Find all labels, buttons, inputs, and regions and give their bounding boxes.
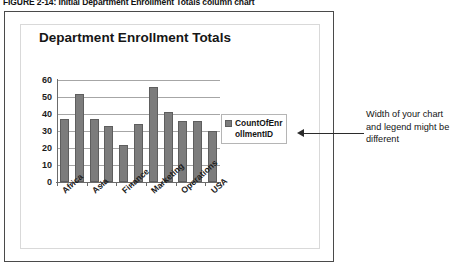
x-axis-tick xyxy=(87,182,88,186)
bar xyxy=(104,126,113,182)
bar xyxy=(119,145,128,182)
y-axis-tick-label: 20 xyxy=(30,143,52,153)
y-axis-tick-label: 10 xyxy=(30,160,52,170)
y-axis-tick-label: 30 xyxy=(30,126,52,136)
legend-entry: CountOfEnrollmentID xyxy=(225,118,283,139)
legend-label: CountOfEnrollmentID xyxy=(235,118,283,139)
y-axis-tick-label: 50 xyxy=(30,92,52,102)
figure-caption: FIGURE 2-14: Initial Department Enrollme… xyxy=(3,0,333,9)
bar xyxy=(75,94,84,182)
x-axis-tick xyxy=(205,182,206,186)
bar xyxy=(60,119,69,182)
bar xyxy=(149,87,158,182)
x-axis-tick xyxy=(146,182,147,186)
annotation-arrow-icon xyxy=(297,129,304,137)
bar xyxy=(90,119,99,182)
y-axis-tick-label: 40 xyxy=(30,109,52,119)
legend-swatch-icon xyxy=(225,120,232,127)
annotation-leader-line xyxy=(300,133,364,134)
x-axis-tick xyxy=(116,182,117,186)
chart-title: Department Enrollment Totals xyxy=(20,30,250,45)
plot-area xyxy=(57,80,220,182)
annotation-text: Width of your chart and legend might be … xyxy=(366,108,451,146)
x-axis-tick xyxy=(57,182,58,186)
figure-container: FIGURE 2-14: Initial Department Enrollme… xyxy=(0,0,451,273)
chart-legend: CountOfEnrollmentID xyxy=(221,114,287,144)
x-axis-tick xyxy=(176,182,177,186)
y-axis-tick-label: 60 xyxy=(30,75,52,85)
y-axis-tick-label: 0 xyxy=(30,177,52,187)
